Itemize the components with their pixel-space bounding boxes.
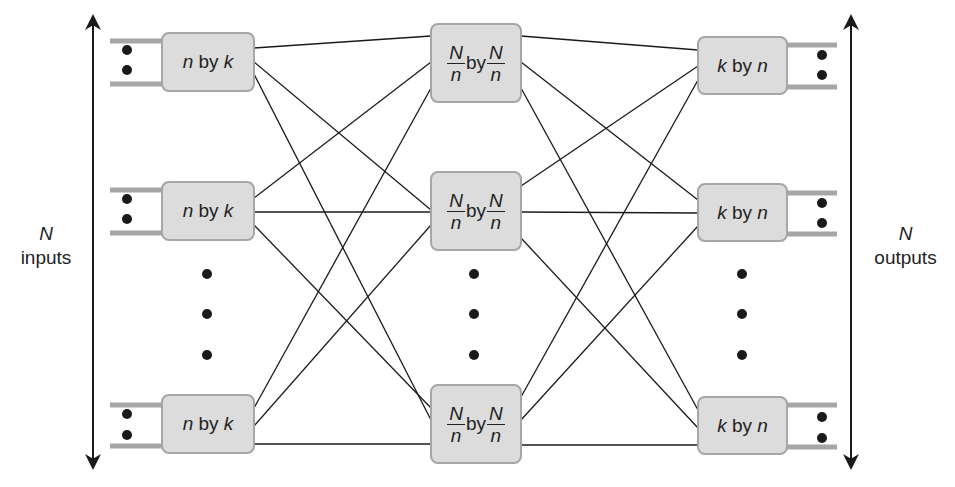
port-dot — [122, 430, 132, 440]
fraction-N-over-n: Nn — [487, 404, 505, 445]
var-n: n — [183, 51, 194, 73]
output-port-bars — [786, 45, 837, 447]
ellipsis-dot — [202, 269, 212, 279]
by-text: by — [732, 202, 752, 224]
var-n: n — [757, 55, 768, 77]
denominator: n — [451, 425, 462, 445]
var-k: k — [224, 51, 234, 73]
by-text: by — [466, 200, 486, 222]
ellipsis-dot — [202, 309, 212, 319]
port-dot — [122, 194, 132, 204]
numerator: N — [487, 191, 505, 212]
port-dot — [817, 198, 827, 208]
port-dot — [817, 412, 827, 422]
by-text: by — [466, 413, 486, 435]
ellipsis-dot — [469, 309, 479, 319]
fraction-N-over-n: Nn — [447, 191, 465, 232]
port-dot — [122, 65, 132, 75]
inputs-count-var: N — [39, 223, 53, 244]
port-dot — [122, 45, 132, 55]
by-text: by — [199, 200, 219, 222]
stage3-switch-3: k by n — [697, 396, 788, 455]
by-text: by — [732, 415, 752, 437]
stage2-switch-3: Nn by Nn — [430, 384, 522, 464]
port-dot — [817, 433, 827, 443]
port-dot — [817, 218, 827, 228]
inputs-text: inputs — [21, 247, 72, 268]
stage1-to-stage2-links — [254, 36, 431, 444]
var-k: k — [224, 200, 234, 222]
ellipsis-dot — [737, 309, 747, 319]
by-text: by — [466, 52, 486, 74]
outputs-count-var: N — [899, 223, 913, 244]
inputs-label: N inputs — [0, 222, 92, 270]
denominator: n — [491, 212, 502, 232]
ellipsis-dot — [469, 350, 479, 360]
stage1-switch-1: n by k — [161, 32, 255, 92]
var-n: n — [183, 200, 194, 222]
var-k: k — [717, 415, 727, 437]
fraction-N-over-n: Nn — [447, 43, 465, 84]
var-k: k — [224, 413, 234, 435]
ellipsis-dot — [469, 269, 479, 279]
fraction-N-over-n: Nn — [447, 404, 465, 445]
ellipsis-dot — [202, 350, 212, 360]
var-k: k — [717, 202, 727, 224]
stage2-switch-2: Nn by Nn — [430, 171, 522, 251]
fraction-N-over-n: Nn — [487, 191, 505, 232]
numerator: N — [487, 43, 505, 64]
ellipsis-dot — [737, 269, 747, 279]
var-n: n — [757, 415, 768, 437]
numerator: N — [487, 404, 505, 425]
stage3-switch-2: k by n — [697, 183, 788, 242]
ellipsis-dot — [737, 350, 747, 360]
by-text: by — [199, 413, 219, 435]
denominator: n — [491, 64, 502, 84]
stage2-switch-1: Nn by Nn — [430, 23, 522, 103]
stage2-to-stage3-links — [521, 36, 698, 445]
port-dot — [122, 214, 132, 224]
port-dot — [817, 50, 827, 60]
by-text: by — [732, 55, 752, 77]
stage1-switch-2: n by k — [161, 181, 255, 241]
by-text: by — [199, 51, 219, 73]
denominator: n — [451, 64, 462, 84]
numerator: N — [447, 404, 465, 425]
denominator: n — [491, 425, 502, 445]
port-dot — [817, 70, 827, 80]
outputs-text: outputs — [874, 247, 936, 268]
stage3-switch-1: k by n — [697, 36, 788, 95]
numerator: N — [447, 43, 465, 64]
fraction-N-over-n: Nn — [487, 43, 505, 84]
numerator: N — [447, 191, 465, 212]
var-n: n — [183, 413, 194, 435]
var-n: n — [757, 202, 768, 224]
var-k: k — [717, 55, 727, 77]
input-port-bars — [110, 41, 162, 446]
denominator: n — [451, 212, 462, 232]
port-dot — [122, 409, 132, 419]
stage1-switch-3: n by k — [161, 394, 255, 454]
outputs-label: N outputs — [856, 222, 955, 270]
